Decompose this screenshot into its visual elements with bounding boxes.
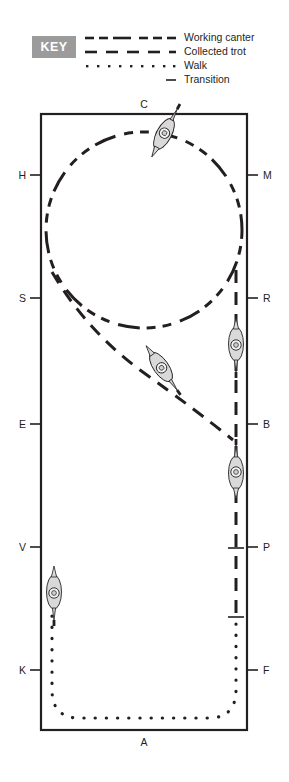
path-collected-trot-diagonal <box>52 272 233 440</box>
arena-letter-r: R <box>263 293 277 304</box>
path-working-canter-circle <box>46 132 242 328</box>
rider-right-lower <box>229 439 244 499</box>
arena-letter-a: A <box>134 737 154 748</box>
arena-letter-m: M <box>263 170 277 181</box>
rider-left-walk <box>47 566 62 626</box>
arena-canvas <box>0 0 289 782</box>
arena-letter-b: B <box>263 419 277 430</box>
arena-outline <box>41 114 247 730</box>
rider-diagonal <box>140 341 187 399</box>
arena-letter-k: K <box>12 665 26 676</box>
arena-letter-c: C <box>134 99 154 110</box>
arena-letter-f: F <box>263 665 277 676</box>
arena-letter-p: P <box>263 542 277 553</box>
arena-letter-h: H <box>12 170 26 181</box>
dressage-test-diagram: KEY Working canter <box>0 0 289 782</box>
arena-letter-s: S <box>12 293 26 304</box>
rider-right-upper <box>229 318 244 378</box>
path-walk <box>52 600 236 718</box>
arena-letter-e: E <box>12 419 26 430</box>
letter-ticks-right <box>247 175 258 670</box>
letter-ticks-left <box>30 175 41 670</box>
arena-letter-v: V <box>12 542 26 553</box>
